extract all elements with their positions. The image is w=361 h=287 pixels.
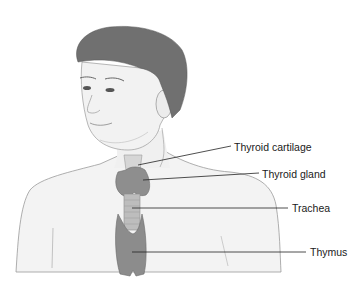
label-thymus: Thymus [310,246,347,258]
thyroid-gland [116,167,150,196]
left-eye [83,86,91,90]
label-thyroid-gland: Thyroid gland [262,168,326,180]
right-eye [106,88,115,92]
label-trachea: Trachea [292,202,330,214]
label-thyroid-cartilage: Thyroid cartilage [234,141,312,153]
